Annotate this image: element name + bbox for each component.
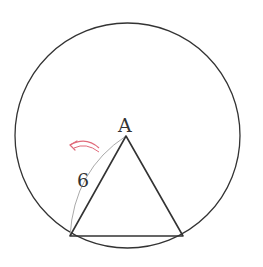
diagram-canvas: A 6 xyxy=(0,0,263,267)
arc-length-label: 6 xyxy=(77,169,89,191)
rotation-arrow-icon xyxy=(70,141,99,152)
vertex-label-a: A xyxy=(117,114,132,136)
